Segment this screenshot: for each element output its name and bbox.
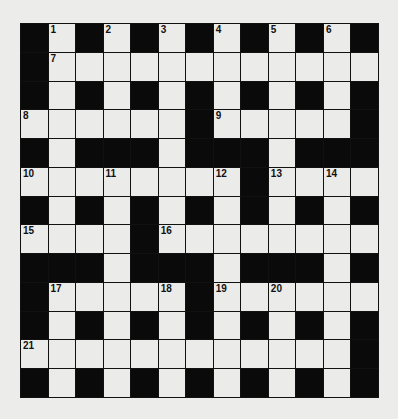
answer-square[interactable] bbox=[351, 168, 378, 196]
answer-square[interactable] bbox=[214, 82, 241, 110]
answer-square[interactable] bbox=[76, 110, 103, 138]
answer-square[interactable] bbox=[76, 168, 103, 196]
answer-square[interactable]: 9 bbox=[214, 110, 241, 138]
answer-square[interactable]: 2 bbox=[104, 24, 131, 52]
answer-square[interactable]: 11 bbox=[104, 168, 131, 196]
answer-square[interactable] bbox=[159, 53, 186, 81]
answer-square[interactable] bbox=[76, 225, 103, 253]
answer-square[interactable] bbox=[104, 82, 131, 110]
answer-square[interactable] bbox=[186, 225, 213, 253]
answer-square[interactable] bbox=[131, 283, 158, 311]
answer-square[interactable] bbox=[269, 110, 296, 138]
answer-square[interactable] bbox=[214, 254, 241, 282]
answer-square[interactable] bbox=[49, 340, 76, 368]
answer-square[interactable] bbox=[76, 53, 103, 81]
answer-square[interactable] bbox=[269, 197, 296, 225]
answer-square[interactable] bbox=[49, 312, 76, 340]
answer-square[interactable] bbox=[324, 312, 351, 340]
answer-square[interactable] bbox=[296, 53, 323, 81]
answer-square[interactable] bbox=[214, 369, 241, 397]
answer-square[interactable] bbox=[104, 369, 131, 397]
answer-square[interactable] bbox=[49, 139, 76, 167]
answer-square[interactable] bbox=[296, 168, 323, 196]
answer-square[interactable] bbox=[214, 225, 241, 253]
answer-square[interactable] bbox=[296, 110, 323, 138]
answer-square[interactable] bbox=[49, 225, 76, 253]
answer-square[interactable] bbox=[269, 82, 296, 110]
answer-square[interactable] bbox=[104, 110, 131, 138]
answer-square[interactable] bbox=[49, 82, 76, 110]
answer-square[interactable] bbox=[76, 283, 103, 311]
answer-square[interactable] bbox=[351, 225, 378, 253]
answer-square[interactable] bbox=[76, 340, 103, 368]
answer-square[interactable] bbox=[104, 225, 131, 253]
answer-square[interactable]: 19 bbox=[214, 283, 241, 311]
answer-square[interactable] bbox=[131, 340, 158, 368]
answer-square[interactable]: 13 bbox=[269, 168, 296, 196]
answer-square[interactable] bbox=[324, 197, 351, 225]
answer-square[interactable] bbox=[269, 139, 296, 167]
answer-square[interactable] bbox=[104, 53, 131, 81]
answer-square[interactable] bbox=[324, 340, 351, 368]
answer-square[interactable] bbox=[49, 369, 76, 397]
answer-square[interactable] bbox=[324, 369, 351, 397]
answer-square[interactable]: 16 bbox=[159, 225, 186, 253]
answer-square[interactable] bbox=[351, 53, 378, 81]
answer-square[interactable] bbox=[324, 82, 351, 110]
answer-square[interactable] bbox=[296, 340, 323, 368]
answer-square[interactable] bbox=[186, 168, 213, 196]
answer-square[interactable] bbox=[104, 254, 131, 282]
answer-square[interactable] bbox=[296, 225, 323, 253]
answer-square[interactable] bbox=[351, 283, 378, 311]
answer-square[interactable] bbox=[324, 283, 351, 311]
answer-square[interactable] bbox=[269, 312, 296, 340]
answer-square[interactable] bbox=[186, 340, 213, 368]
answer-square[interactable] bbox=[269, 340, 296, 368]
answer-square[interactable] bbox=[296, 283, 323, 311]
answer-square[interactable]: 21 bbox=[21, 340, 48, 368]
answer-square[interactable] bbox=[269, 369, 296, 397]
answer-square[interactable] bbox=[241, 340, 268, 368]
answer-square[interactable] bbox=[104, 197, 131, 225]
answer-square[interactable] bbox=[49, 197, 76, 225]
answer-square[interactable]: 17 bbox=[49, 283, 76, 311]
answer-square[interactable]: 6 bbox=[324, 24, 351, 52]
answer-square[interactable]: 7 bbox=[49, 53, 76, 81]
answer-square[interactable]: 20 bbox=[269, 283, 296, 311]
answer-square[interactable]: 5 bbox=[269, 24, 296, 52]
answer-square[interactable]: 10 bbox=[21, 168, 48, 196]
answer-square[interactable] bbox=[159, 139, 186, 167]
answer-square[interactable]: 3 bbox=[159, 24, 186, 52]
answer-square[interactable] bbox=[104, 283, 131, 311]
answer-square[interactable] bbox=[241, 53, 268, 81]
answer-square[interactable]: 15 bbox=[21, 225, 48, 253]
answer-square[interactable] bbox=[159, 340, 186, 368]
answer-square[interactable] bbox=[214, 53, 241, 81]
answer-square[interactable] bbox=[104, 340, 131, 368]
answer-square[interactable] bbox=[49, 168, 76, 196]
answer-square[interactable] bbox=[159, 168, 186, 196]
answer-square[interactable] bbox=[131, 53, 158, 81]
answer-square[interactable] bbox=[241, 283, 268, 311]
answer-square[interactable] bbox=[214, 312, 241, 340]
answer-square[interactable] bbox=[269, 53, 296, 81]
answer-square[interactable] bbox=[324, 254, 351, 282]
answer-square[interactable]: 4 bbox=[214, 24, 241, 52]
answer-square[interactable] bbox=[49, 110, 76, 138]
answer-square[interactable] bbox=[159, 197, 186, 225]
answer-square[interactable] bbox=[159, 369, 186, 397]
answer-square[interactable] bbox=[241, 225, 268, 253]
answer-square[interactable] bbox=[324, 53, 351, 81]
answer-square[interactable] bbox=[159, 110, 186, 138]
answer-square[interactable] bbox=[104, 312, 131, 340]
answer-square[interactable] bbox=[186, 53, 213, 81]
answer-square[interactable]: 1 bbox=[49, 24, 76, 52]
answer-square[interactable] bbox=[324, 110, 351, 138]
answer-square[interactable] bbox=[159, 312, 186, 340]
answer-square[interactable]: 18 bbox=[159, 283, 186, 311]
answer-square[interactable]: 14 bbox=[324, 168, 351, 196]
answer-square[interactable] bbox=[269, 225, 296, 253]
answer-square[interactable]: 8 bbox=[21, 110, 48, 138]
answer-square[interactable] bbox=[214, 197, 241, 225]
answer-square[interactable] bbox=[131, 168, 158, 196]
